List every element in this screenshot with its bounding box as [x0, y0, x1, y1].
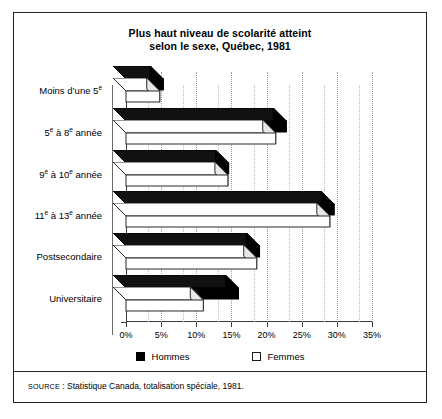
x-tick [196, 322, 197, 327]
x-tick [126, 322, 127, 327]
x-tick-label: 20% [247, 330, 287, 340]
x-tick-label: 15% [211, 330, 251, 340]
chart-title-line-1: Plus haut niveau de scolarité atteint [14, 27, 426, 40]
legend-item-hommes: Hommes [136, 351, 190, 362]
x-tick-label: 25% [282, 330, 322, 340]
x-tick-label: 35% [352, 330, 392, 340]
gridline [372, 72, 373, 322]
x-tick [231, 322, 232, 327]
category-label: Universitaire [49, 293, 102, 304]
category-label: 11e à 13e année [35, 209, 102, 221]
x-tick [337, 322, 338, 327]
source-text: : Statistique Canada, totalisation spéci… [60, 381, 244, 391]
category-label: Moins d’une 5e [39, 84, 102, 96]
bar-3d-body [113, 287, 205, 313]
legend-label-femmes: Femmes [268, 351, 305, 362]
category-label: Postsecondaire [37, 251, 102, 262]
legend-swatch-hommes [136, 352, 145, 361]
category-label: 9e à 10e année [39, 168, 102, 180]
legend-swatch-femmes [252, 352, 261, 361]
category-label: 5e à 8e année [45, 126, 102, 138]
x-tick [372, 322, 373, 327]
x-tick-label: 5% [141, 330, 181, 340]
x-tick [267, 322, 268, 327]
bar-femmes [112, 72, 372, 322]
source-note: SOURCE : Statistique Canada, totalisatio… [28, 381, 244, 391]
source-divider [14, 371, 426, 372]
chart-title-line-2: selon le sexe, Québec, 1981 [14, 40, 426, 53]
figure-frame: Plus haut niveau de scolarité atteint se… [13, 12, 427, 403]
legend-label-hommes: Hommes [152, 351, 190, 362]
legend-item-femmes: Femmes [252, 351, 305, 362]
x-tick-label: 30% [317, 330, 357, 340]
plot-area: 0%5%10%15%20%25%30%35% Moins d’une 5e5e … [112, 72, 372, 322]
x-tick [161, 322, 162, 327]
legend: Hommes Femmes [14, 351, 426, 362]
x-tick-label: 10% [176, 330, 216, 340]
x-tick-label: 0% [106, 330, 146, 340]
source-label: SOURCE [28, 382, 60, 391]
chart-title: Plus haut niveau de scolarité atteint se… [14, 27, 426, 53]
x-tick [302, 322, 303, 327]
category-tick [121, 322, 126, 323]
